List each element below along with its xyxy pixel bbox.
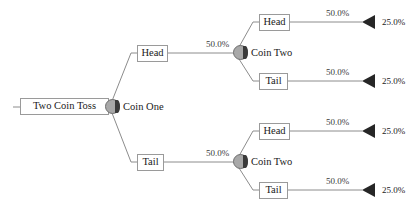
root-node-label: Two Coin Toss bbox=[33, 101, 96, 112]
leaf-value-head-tail: 25.0% bbox=[382, 77, 405, 86]
leaf-node-tail-tail-label: Tail bbox=[265, 185, 281, 196]
leaf-node-tail-tail[interactable]: Tail bbox=[259, 182, 288, 199]
chance-node-coin-two-upper-label: Coin Two bbox=[251, 48, 292, 59]
leaf-edge-label-head-head: 50.0% bbox=[326, 9, 349, 18]
probability-tree-diagram: Two Coin Toss Coin One Head 50.0% Coin T… bbox=[0, 0, 420, 215]
chance-node-coin-two-upper-cap bbox=[243, 46, 248, 59]
branch-node-tail-label: Tail bbox=[142, 157, 158, 168]
leaf-node-head-tail[interactable]: Tail bbox=[259, 73, 288, 90]
edge-label-head: 50.0% bbox=[206, 40, 229, 49]
leaf-node-tail-head[interactable]: Head bbox=[259, 123, 290, 140]
edge-label-tail: 50.0% bbox=[206, 149, 229, 158]
leaf-edge-label-tail-tail: 50.0% bbox=[326, 177, 349, 186]
leaf-value-head-head: 25.0% bbox=[382, 18, 405, 27]
leaf-node-tail-head-label: Head bbox=[263, 126, 285, 137]
leaf-value-tail-tail: 25.0% bbox=[382, 186, 405, 195]
chance-node-coin-two-lower-cap bbox=[243, 155, 248, 168]
branch-node-head[interactable]: Head bbox=[137, 45, 168, 62]
leaf-edge-label-tail-head: 50.0% bbox=[326, 118, 349, 127]
chance-node-coin-one-label: Coin One bbox=[123, 102, 164, 113]
terminal-arrow-tail-head bbox=[362, 124, 375, 138]
terminal-arrow-tail-tail bbox=[362, 183, 375, 197]
leaf-node-head-head[interactable]: Head bbox=[259, 14, 290, 31]
leaf-node-head-head-label: Head bbox=[263, 17, 285, 28]
chance-node-coin-two-lower-label: Coin Two bbox=[251, 157, 292, 168]
branch-node-head-label: Head bbox=[141, 48, 163, 59]
leaf-edge-label-head-tail: 50.0% bbox=[326, 68, 349, 77]
terminal-arrow-head-tail bbox=[362, 74, 375, 88]
chance-node-coin-one-cap bbox=[115, 100, 120, 113]
leaf-node-head-tail-label: Tail bbox=[265, 76, 281, 87]
root-node-box[interactable]: Two Coin Toss bbox=[20, 98, 109, 115]
leaf-value-tail-head: 25.0% bbox=[382, 127, 405, 136]
terminal-arrow-head-head bbox=[362, 15, 375, 29]
branch-node-tail[interactable]: Tail bbox=[137, 154, 164, 171]
